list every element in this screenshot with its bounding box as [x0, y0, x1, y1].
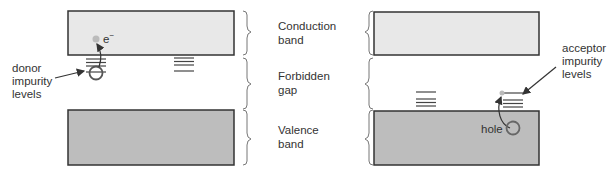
- acceptor-level-lines-left: [416, 92, 436, 106]
- donor-callout-line1: donor: [12, 62, 42, 74]
- acceptor-electron-icon: [500, 91, 505, 96]
- acceptor-callout-line1: acceptor: [562, 42, 606, 54]
- acceptor-callout-line2: impurity: [562, 55, 603, 67]
- center-labels: Conduction band Forbidden gap Valence ba…: [278, 20, 336, 150]
- left-panel: e− donor impurity levels: [12, 11, 251, 165]
- hole-label: hole: [481, 123, 503, 135]
- acceptor-level-lines-right: [503, 93, 523, 107]
- right-conduction-band: [374, 12, 539, 55]
- electron-icon: [93, 36, 100, 43]
- forbidden-gap-label-line2: gap: [278, 84, 297, 96]
- ionized-donor-icon: [90, 67, 103, 80]
- donor-callout-arrow-icon: [55, 71, 84, 78]
- forbidden-gap-label-line1: Forbidden: [278, 70, 330, 82]
- valence-band-label-line1: Valence: [278, 124, 319, 136]
- valence-band-label-line2: band: [278, 138, 304, 150]
- left-braces: [243, 11, 251, 165]
- acceptor-callout-arrow-icon: [523, 67, 556, 94]
- acceptor-callout-line3: levels: [562, 68, 592, 80]
- donor-level-lines-left: [86, 59, 106, 72]
- left-valence-band: [68, 110, 234, 165]
- donor-level-lines-right: [174, 58, 194, 71]
- right-panel: hole acceptor impurity levels: [365, 11, 606, 165]
- donor-callout-line3: levels: [12, 88, 42, 100]
- conduction-band-label-line1: Conduction: [278, 20, 336, 32]
- donor-callout-line2: impurity: [12, 75, 53, 87]
- energy-band-diagram: e− donor impurity levels Conduction band…: [0, 0, 611, 177]
- left-conduction-band: [68, 11, 234, 55]
- right-braces: [365, 11, 373, 165]
- conduction-band-label-line2: band: [278, 34, 304, 46]
- right-valence-band: [374, 111, 539, 165]
